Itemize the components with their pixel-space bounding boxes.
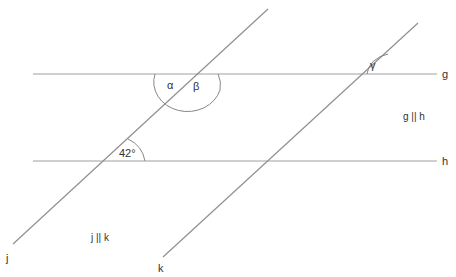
annotation-g-parallel-h: g || h xyxy=(403,111,425,122)
angle-label-alpha: α xyxy=(167,79,174,91)
line-label-j: j xyxy=(5,252,8,264)
line-label-h: h xyxy=(442,155,448,167)
parallel-lines-angle-diagram: α β γ 42° g h j k g || h j || k xyxy=(0,0,456,277)
line-j xyxy=(13,9,268,244)
annotation-j-parallel-k: j || k xyxy=(90,232,110,243)
angle-arc-alpha-beta xyxy=(154,74,221,112)
angle-label-gamma: γ xyxy=(370,59,376,71)
angle-label-beta: β xyxy=(193,80,199,92)
angle-label-42: 42° xyxy=(119,147,136,159)
line-label-k: k xyxy=(158,262,164,274)
line-k xyxy=(163,23,418,257)
line-label-g: g xyxy=(442,68,448,80)
